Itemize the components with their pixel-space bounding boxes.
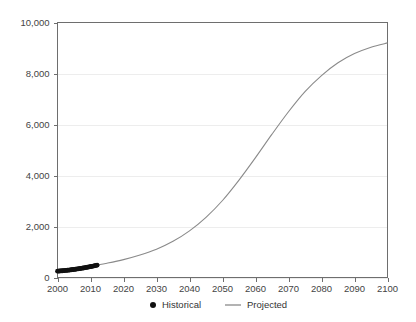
legend-marker-historical <box>150 302 156 308</box>
x-tick-label: 2080 <box>311 283 332 294</box>
projected-line-path <box>97 43 387 265</box>
legend-label-historical: Historical <box>162 299 201 310</box>
x-tick-label: 2090 <box>344 283 365 294</box>
x-tick-label: 2000 <box>47 283 68 294</box>
chart-legend: HistoricalProjected <box>150 299 287 310</box>
x-tick-label: 2030 <box>146 283 167 294</box>
plot-frame <box>58 23 388 278</box>
y-tick-label: 4,000 <box>26 170 50 181</box>
x-tick-label: 2070 <box>278 283 299 294</box>
y-axis-tick-labels: 02,0004,0006,0008,00010,000 <box>20 17 49 283</box>
y-tick-label: 0 <box>44 272 49 283</box>
population-projection-chart: 02,0004,0006,0008,00010,000 200020102020… <box>0 0 416 322</box>
y-tick-label: 10,000 <box>20 17 49 28</box>
historical-series <box>55 263 99 274</box>
x-axis-tick-labels: 2000201020202030204020502060207020802090… <box>47 283 398 294</box>
y-tick-label: 2,000 <box>26 221 50 232</box>
y-axis-ticks <box>54 24 58 279</box>
x-tick-label: 2040 <box>179 283 200 294</box>
x-tick-label: 2060 <box>245 283 266 294</box>
axis-frame-rect <box>58 23 388 278</box>
x-tick-label: 2050 <box>212 283 233 294</box>
y-tick-label: 8,000 <box>26 68 50 79</box>
projected-series <box>97 43 387 265</box>
gridlines <box>58 75 388 279</box>
x-tick-label: 2010 <box>80 283 101 294</box>
historical-data-point <box>95 263 100 268</box>
x-tick-label: 2020 <box>113 283 134 294</box>
x-tick-label: 2100 <box>377 283 398 294</box>
chart-container: 02,0004,0006,0008,00010,000 200020102020… <box>0 0 416 322</box>
y-tick-label: 6,000 <box>26 119 50 130</box>
legend-label-projected: Projected <box>247 299 287 310</box>
